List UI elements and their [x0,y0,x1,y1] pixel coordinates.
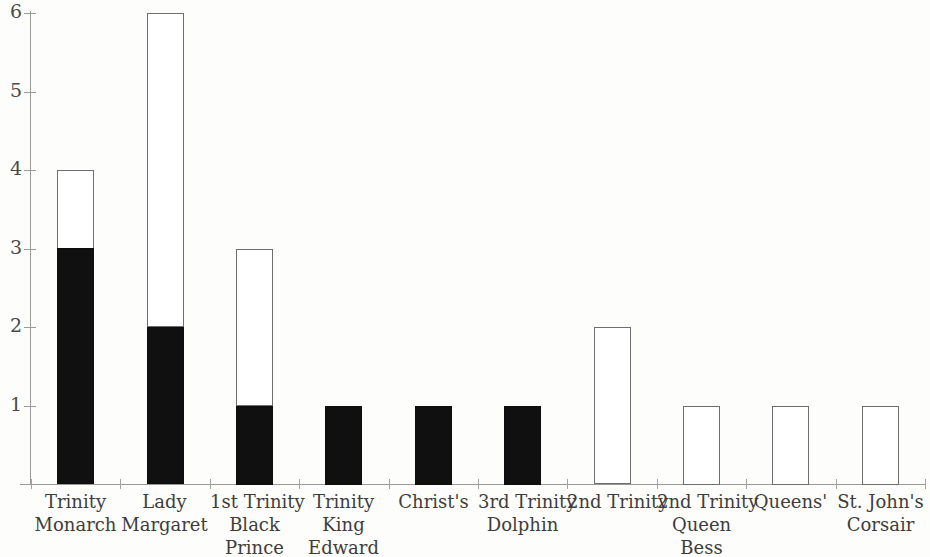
x-tick-9 [836,479,837,489]
x-axis-label-line: 3rd Trinity [478,490,567,513]
y-tick-1 [24,406,36,407]
bar-segment-open [57,170,94,249]
x-axis-label-line: Trinity [31,490,120,513]
x-axis-label-line: Corsair [836,513,925,536]
x-tick-6 [567,479,568,489]
y-tick-4 [24,170,36,171]
x-axis-label-line: Dolphin [478,513,567,536]
bar [147,13,184,484]
bar-segment-open [147,13,184,327]
y-tick-5 [24,92,36,93]
bar [683,406,720,485]
x-axis-label: Queens' [746,490,835,513]
x-axis-label: Christ's [389,490,478,513]
bar-segment-filled [415,406,452,485]
y-tick-6 [24,13,36,14]
x-axis-label-line: Black [210,513,299,536]
bar-segment-filled [504,406,541,485]
bar [325,406,362,485]
y-tick-label-2: 2 [0,316,22,335]
x-axis-label-line: Edward [299,536,388,557]
x-axis-label-line: Queens' [746,490,835,513]
x-tick-10 [925,479,926,489]
x-tick-7 [657,479,658,489]
x-axis-label-line: Christ's [389,490,478,513]
x-axis-label: St. John'sCorsair [836,490,925,536]
bar-segment-open [772,406,809,485]
x-axis-label-line: 1st Trinity [210,490,299,513]
bar-segment-filled [325,406,362,485]
x-axis-label: 2nd TrinityQueenBess [657,490,746,557]
x-axis-label: 2nd Trinity [567,490,656,513]
y-tick-label-5: 5 [0,81,22,100]
bar [236,249,273,485]
x-tick-8 [746,479,747,489]
x-axis-label: LadyMargaret [120,490,209,536]
x-axis-label-line: Lady [120,490,209,513]
x-tick-4 [389,479,390,489]
y-tick-label-6: 6 [0,2,22,21]
bar [415,406,452,485]
x-tick-5 [478,479,479,489]
bar-segment-open [236,249,273,406]
x-axis-label: TrinityKingEdward [299,490,388,557]
y-tick-2 [24,327,36,328]
x-tick-0 [31,479,32,489]
bar-segment-open [594,327,631,484]
bar [862,406,899,485]
bar-segment-filled [236,406,273,485]
x-axis-label-line: Bess [657,536,746,557]
x-tick-1 [120,479,121,489]
bar [772,406,809,485]
x-axis-label-line: Prince [210,536,299,557]
y-tick-3 [24,249,36,250]
x-axis-label-line: Margaret [120,513,209,536]
bar [504,406,541,485]
bar-segment-filled [147,327,184,484]
x-tick-2 [210,479,211,489]
x-axis-label: 1st TrinityBlackPrince [210,490,299,557]
bar-segment-filled [57,248,94,484]
x-axis-label-line: Monarch [31,513,120,536]
bar [594,327,631,484]
y-tick-label-4: 4 [0,159,22,178]
x-axis-label-line: Trinity [299,490,388,513]
x-axis-label-line: Queen [657,513,746,536]
x-axis-label-line: King [299,513,388,536]
y-tick-label-3: 3 [0,238,22,257]
bar-segment-open [862,406,899,485]
x-axis-label-line: St. John's [836,490,925,513]
x-axis-label-line: 2nd Trinity [567,490,656,513]
x-tick-3 [299,479,300,489]
x-axis-label: 3rd TrinityDolphin [478,490,567,536]
y-tick-label-1: 1 [0,395,22,414]
x-axis-label: TrinityMonarch [31,490,120,536]
bar [57,170,94,484]
bar-chart: 123456 TrinityMonarchLadyMargaret1st Tri… [0,0,930,557]
x-axis-label-line: 2nd Trinity [657,490,746,513]
bar-segment-open [683,406,720,485]
